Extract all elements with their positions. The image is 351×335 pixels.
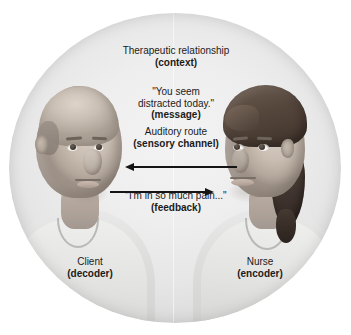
message-line-3: (message) (101, 109, 251, 121)
nurse-ear (281, 139, 294, 158)
channel-line-1: Auditory route (101, 126, 251, 138)
client-ear (35, 135, 48, 154)
client-nose (83, 149, 102, 175)
feedback-line-1: "I'm in so much pain..." (91, 190, 261, 202)
message-line-2: distracted today." (101, 98, 251, 110)
channel-line-2: (sensory channel) (101, 138, 251, 150)
nurse-line-1: Nurse (215, 256, 305, 268)
nurse-eye-right (258, 144, 269, 151)
client-line-1: Client (45, 256, 135, 268)
nurse-brow-right (257, 137, 272, 141)
client-line-2: (decoder) (45, 268, 135, 280)
feedback-label: "I'm in so much pain..." (feedback) (91, 190, 261, 213)
nurse-label: Nurse (encoder) (215, 256, 305, 279)
message-line-1: "You seem (101, 86, 251, 98)
message-arrow (125, 162, 237, 172)
client-eye-left (67, 144, 78, 151)
nurse-ponytail-tip (276, 209, 296, 243)
message-arrow-shaft (133, 166, 237, 168)
context-label: Therapeutic relationship (context) (76, 45, 276, 68)
communication-process-diagram: Therapeutic relationship (context) "You … (0, 0, 351, 335)
message-label: "You seem distracted today." (message) (101, 86, 251, 121)
feedback-line-2: (feedback) (91, 202, 261, 214)
client-label: Client (decoder) (45, 256, 135, 279)
context-line-2: (context) (76, 57, 276, 69)
context-line-1: Therapeutic relationship (76, 45, 276, 57)
nurse-line-2: (encoder) (215, 268, 305, 280)
sensory-channel-label: Auditory route (sensory channel) (101, 126, 251, 149)
